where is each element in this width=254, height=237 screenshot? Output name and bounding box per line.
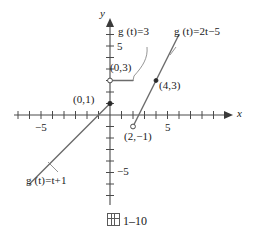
point-label-0-1: (0,1) (73, 94, 95, 105)
point-marker-0-3 (108, 78, 113, 83)
figure-caption: 1–10 (0, 212, 254, 229)
figure-caption-number: 1–10 (123, 214, 147, 228)
x-tick-label-neg5: −5 (35, 122, 47, 133)
figure-cjk-glyph-icon (107, 213, 120, 226)
point-label-0-3: (0,3) (110, 62, 132, 73)
y-tick-label-neg5: −5 (117, 166, 129, 177)
function-label-t-plus-1: g (t)=t+1 (26, 175, 67, 186)
function-label-2t-minus-5: g (t)=2t−5 (174, 26, 220, 37)
point-label-2-neg1: (2,−1) (124, 131, 152, 142)
x-axis-arrowhead (224, 111, 233, 119)
figure-container: x y −5 5 5 −5 g (t)=3 g (t)=2t−5 g (t)=t… (0, 0, 254, 237)
point-marker-0-1 (108, 101, 112, 105)
point-label-4-3: (4,3) (159, 80, 181, 91)
point-marker-4-3 (154, 79, 158, 83)
y-tick-label-pos5: 5 (117, 41, 123, 52)
x-axis-group (14, 111, 233, 119)
y-axis-group (106, 18, 114, 205)
series-line-t-plus-1 (30, 101, 113, 184)
function-label-constant-3: g (t)=3 (118, 26, 149, 37)
y-axis-arrowhead (106, 18, 114, 27)
leader-line-constant-3 (133, 47, 147, 81)
y-axis-label: y (100, 8, 105, 19)
x-tick-label-pos5: 5 (165, 122, 171, 133)
leader-line-t-plus-1 (48, 162, 58, 172)
x-axis-label: x (237, 108, 242, 119)
point-marker-2-neg1 (131, 124, 136, 129)
series-line-constant-3 (108, 78, 133, 83)
